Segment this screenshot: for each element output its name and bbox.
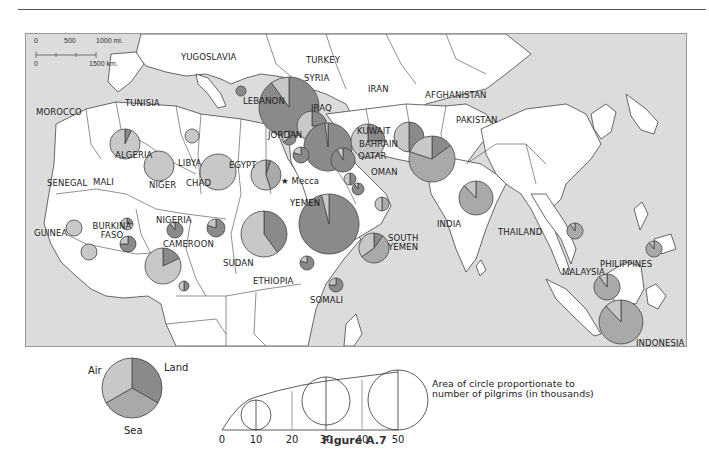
label-algeria: ALGERIA <box>115 151 152 160</box>
label-egypt: EGYPT <box>229 161 257 170</box>
pie-senegal <box>66 220 82 236</box>
label-senegal: SENEGAL <box>47 179 87 188</box>
pie-somali <box>329 278 343 292</box>
label-syria: SYRIA <box>304 74 329 83</box>
pie-layer <box>26 34 686 346</box>
label-burkina-faso: BURKINA FASO <box>82 222 142 240</box>
label-niger: NIGER <box>149 181 176 190</box>
label-thailand: THAILAND <box>498 228 542 237</box>
label-iraq: IRAQ <box>311 104 332 113</box>
label-ethiopia: ETHIOPIA <box>253 277 293 286</box>
pie-cameroon <box>179 281 189 291</box>
label-philippines: PHILIPPINES <box>600 260 652 269</box>
label-nigeria: NIGERIA <box>156 216 192 225</box>
pie-guinea <box>81 244 97 260</box>
label-libya: LIBYA <box>178 159 201 168</box>
pie-south-yemen <box>359 233 389 263</box>
pie-kuwait <box>331 148 355 172</box>
label-turkey: TURKEY <box>306 56 340 65</box>
label-yemen: YEMEN <box>290 199 320 208</box>
label-sudan: SUDAN <box>223 259 254 268</box>
label-tunisia: TUNISIA <box>125 99 160 108</box>
label-mali: MALI <box>93 178 114 187</box>
pie-chad <box>207 219 225 237</box>
label-kuwait: KUWAIT <box>357 127 391 136</box>
pie-thailand <box>567 223 583 239</box>
pie-philippines <box>646 241 662 257</box>
label-pakistan: PAKISTAN <box>456 116 497 125</box>
mecca-marker: ★ Mecca <box>281 177 319 186</box>
label-morocco: MOROCCO <box>36 108 82 117</box>
label-oman: OMAN <box>371 168 398 177</box>
label-malaysia: MALAYSIA <box>562 268 605 277</box>
label-lebanon: LEBANON <box>243 97 285 106</box>
size-legend-note: Area of circle proportionate to number o… <box>432 379 612 399</box>
label-iran: IRAN <box>368 85 389 94</box>
pie-yugoslavia <box>236 86 246 96</box>
star-icon: ★ <box>281 176 289 186</box>
pie-sudan <box>241 211 287 257</box>
label-south-yemen: SOUTH YEMEN <box>388 234 434 252</box>
pie-bahrain <box>344 173 356 185</box>
pie-pakistan <box>409 136 455 182</box>
pie-qatar <box>352 183 364 195</box>
legend-land-label: Land <box>164 362 188 373</box>
label-jordan: JORDAN <box>268 131 302 140</box>
pie-oman <box>375 197 389 211</box>
label-somali: SOMALI <box>310 296 343 305</box>
legend-air-label: Air <box>88 365 102 376</box>
label-cameroon: CAMEROON <box>163 240 214 249</box>
pie-jordan <box>293 147 309 163</box>
figure-caption: Figure A.7 <box>0 434 709 447</box>
label-guinea: GUINEA <box>34 229 67 238</box>
pie-india <box>459 181 493 215</box>
map-frame: 0 500 1000 mi. 0 1500 km. YUGOSLAVIA TUR… <box>25 33 687 347</box>
pie-nigeria <box>145 248 181 284</box>
pie-tunisia <box>185 129 199 143</box>
label-bahrain: BAHRAIN <box>359 140 398 149</box>
label-chad: CHAD <box>186 179 211 188</box>
label-qatar: QATAR <box>358 152 387 161</box>
label-yugoslavia: YUGOSLAVIA <box>181 53 236 62</box>
label-afghanistan: AFGHANISTAN <box>425 91 487 100</box>
mecca-label: Mecca <box>292 176 320 186</box>
label-india: INDIA <box>437 220 461 229</box>
pie-malaysia <box>594 274 620 300</box>
legend: Air Land Sea 0 10 20 30 40 50 Area of ci… <box>0 345 709 435</box>
top-rule <box>18 9 706 10</box>
pie-ethiopia <box>300 256 314 270</box>
